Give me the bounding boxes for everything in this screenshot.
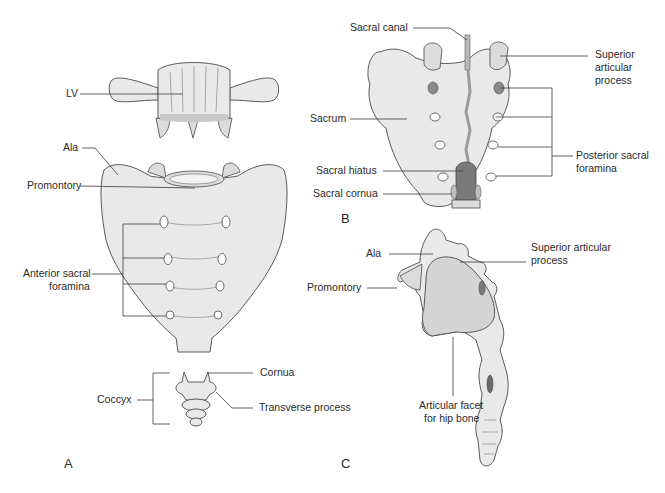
label-sacrum: Sacrum [310, 112, 346, 124]
label-ala-lateral: Ala [366, 247, 381, 259]
panel-a: LV Ala Promontory Anterior sacral forami… [23, 63, 351, 472]
coccyx-illustration [176, 372, 216, 426]
sacrum-coccyx-figure: LV Ala Promontory Anterior sacral forami… [0, 0, 665, 493]
panel-label-c: C [341, 456, 350, 471]
label-superior-articular-process-line3: process [595, 74, 632, 86]
panel-label-a: A [64, 456, 73, 471]
label-sacral-hiatus: Sacral hiatus [316, 164, 377, 176]
label-transverse-process: Transverse process [259, 401, 351, 413]
sacrum-posterior-illustration [368, 35, 510, 208]
label-superior-articular-process-lateral: Superior articular [531, 241, 611, 253]
label-lv: LV [66, 87, 78, 99]
label-superior-articular-process-line2: articular [595, 61, 633, 73]
label-promontory: Promontory [27, 179, 82, 191]
label-sacral-cornua: Sacral cornua [313, 187, 378, 199]
label-superior-articular-process: Superior [595, 48, 635, 60]
label-posterior-sacral-foramina: Posterior sacral [576, 149, 649, 161]
label-anterior-sacral-foramina: Anterior sacral [23, 267, 91, 279]
sacrum-anterior-illustration [101, 163, 287, 352]
label-coccyx: Coccyx [97, 393, 132, 405]
label-promontory-lateral: Promontory [307, 281, 362, 293]
label-articular-facet-line2: for hip bone [424, 412, 480, 424]
lumbar-vertebra-illustration [109, 63, 278, 139]
panel-label-b: B [341, 211, 350, 226]
panel-c: Ala Superior articular process Promontor… [307, 229, 611, 471]
label-sacral-canal: Sacral canal [350, 21, 408, 33]
label-ala: Ala [63, 141, 78, 153]
label-superior-articular-process-lateral-line2: process [531, 254, 568, 266]
label-anterior-sacral-foramina-line2: foramina [49, 280, 90, 292]
label-cornua: Cornua [260, 366, 295, 378]
label-articular-facet: Articular facet [419, 399, 483, 411]
panel-b: Sacral canal Superior articular process … [310, 21, 649, 226]
label-posterior-sacral-foramina-line2: foramina [576, 162, 617, 174]
